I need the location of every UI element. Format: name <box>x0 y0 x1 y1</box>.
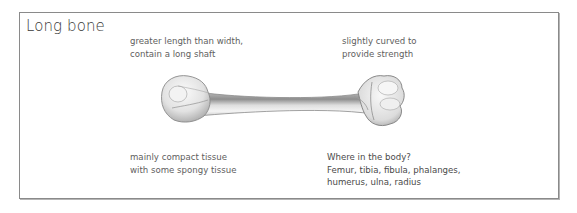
diagram-title: Long bone <box>26 17 105 35</box>
annotation-tissue: mainly compact tissue with some spongy t… <box>130 151 236 176</box>
annotation-line: mainly compact tissue <box>130 151 236 164</box>
annotation-line: Where in the body? <box>327 151 461 164</box>
annotation-line: greater length than width, <box>130 35 243 48</box>
annotation-curved-strength: slightly curved to provide strength <box>342 35 417 60</box>
annotation-line: provide strength <box>342 48 417 61</box>
annotation-locations: Where in the body? Femur, tibia, fibula,… <box>327 151 461 189</box>
annotation-line: contain a long shaft <box>130 48 243 61</box>
annotation-line: slightly curved to <box>342 35 417 48</box>
annotation-line: with some spongy tissue <box>130 164 236 177</box>
annotation-line: humerus, ulna, radius <box>327 176 461 189</box>
annotation-line: Femur, tibia, fibula, phalanges, <box>327 164 461 177</box>
annotation-length-shaft: greater length than width, contain a lon… <box>130 35 243 60</box>
long-bone-illustration <box>158 70 408 132</box>
